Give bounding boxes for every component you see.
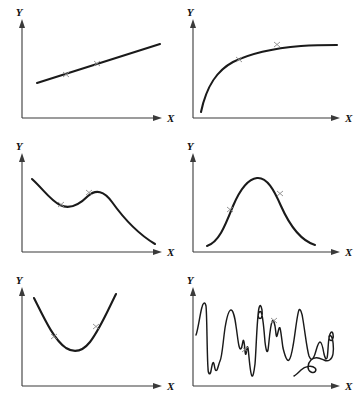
x-axis-arrowhead bbox=[331, 383, 340, 389]
data-curve bbox=[34, 294, 116, 351]
y-axis-arrowhead bbox=[190, 19, 196, 28]
figure-six-relationship-plots: Y X Y X bbox=[0, 0, 363, 402]
x-axis-arrowhead bbox=[153, 383, 162, 389]
x-axis-label: X bbox=[344, 246, 353, 258]
data-curve bbox=[207, 178, 315, 246]
data-curve bbox=[201, 45, 337, 112]
x-axis-label: X bbox=[166, 380, 175, 392]
y-axis-label: Y bbox=[16, 6, 24, 18]
y-axis-arrowhead bbox=[190, 153, 196, 162]
y-axis-label: Y bbox=[16, 140, 24, 152]
y-axis-label: Y bbox=[187, 274, 195, 286]
plot-noisy-erratic: Y X bbox=[181, 268, 363, 402]
data-curve bbox=[196, 303, 333, 376]
axes bbox=[19, 153, 162, 255]
panel-noisy-erratic: Y X bbox=[181, 268, 363, 402]
axes bbox=[19, 19, 162, 121]
axes bbox=[190, 19, 340, 121]
data-curve bbox=[32, 179, 155, 244]
x-axis-arrowhead bbox=[331, 115, 340, 121]
y-axis-arrowhead bbox=[19, 19, 25, 28]
panel-parabola-minimum: Y X bbox=[0, 268, 181, 402]
data-marker bbox=[274, 42, 280, 47]
x-axis-arrowhead bbox=[153, 249, 162, 255]
panel-bell-shaped: Y X bbox=[181, 134, 363, 268]
axes bbox=[190, 153, 340, 255]
panel-linear-increasing: Y X bbox=[0, 0, 181, 134]
plot-parabola-minimum: Y X bbox=[0, 268, 181, 402]
x-axis-label: X bbox=[166, 246, 175, 258]
data-marker bbox=[277, 191, 283, 196]
y-axis-label: Y bbox=[187, 140, 195, 152]
x-axis-label: X bbox=[166, 112, 175, 124]
y-axis-label: Y bbox=[187, 6, 195, 18]
data-marker bbox=[93, 324, 99, 329]
data-curve bbox=[37, 44, 160, 83]
x-axis-label: X bbox=[344, 112, 353, 124]
plot-wavy-decreasing: Y X bbox=[0, 134, 181, 268]
plot-linear-increasing: Y X bbox=[0, 0, 181, 134]
x-axis-label: X bbox=[344, 380, 353, 392]
y-axis-arrowhead bbox=[190, 287, 196, 296]
y-axis-arrowhead bbox=[19, 287, 25, 296]
x-axis-arrowhead bbox=[331, 249, 340, 255]
axes bbox=[19, 287, 162, 389]
plot-bell-shaped: Y X bbox=[181, 134, 363, 268]
panel-grid: Y X Y X bbox=[0, 0, 363, 402]
y-axis-label: Y bbox=[16, 274, 24, 286]
x-axis-arrowhead bbox=[153, 115, 162, 121]
panel-logarithmic-saturating: Y X bbox=[181, 0, 363, 134]
plot-logarithmic-saturating: Y X bbox=[181, 0, 363, 134]
panel-wavy-decreasing: Y X bbox=[0, 134, 181, 268]
y-axis-arrowhead bbox=[19, 153, 25, 162]
